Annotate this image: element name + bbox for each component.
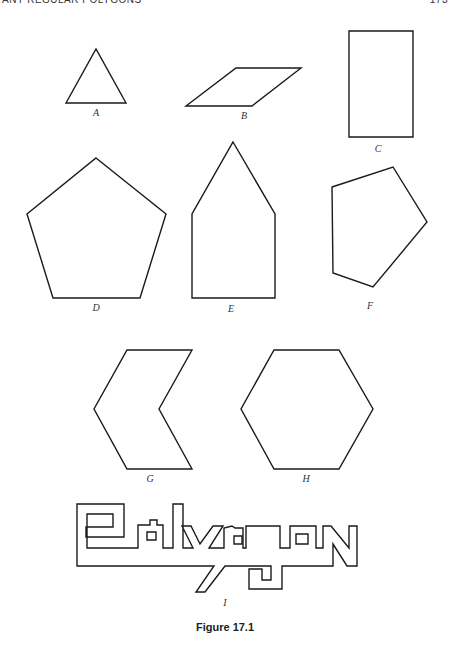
label-d: D xyxy=(92,302,99,313)
shape-d-pentagon xyxy=(27,158,166,298)
label-i: I xyxy=(223,597,226,608)
label-a: A xyxy=(93,107,99,118)
shape-h-hexagon xyxy=(241,350,373,469)
label-g: G xyxy=(146,473,153,484)
shape-b-parallelogram xyxy=(186,68,301,106)
label-e: E xyxy=(228,303,234,314)
label-b: B xyxy=(241,110,247,121)
shape-f-irregular-pentagon xyxy=(332,167,427,287)
label-f: F xyxy=(367,300,373,311)
label-h: H xyxy=(302,473,309,484)
figure-caption: Figure 17.1 xyxy=(196,621,254,633)
shape-a-triangle xyxy=(66,49,126,103)
label-c: C xyxy=(375,143,382,154)
polygon-figure xyxy=(0,0,450,645)
shape-i-polygon-word xyxy=(77,504,357,592)
shape-g-chevron xyxy=(94,350,192,469)
shape-c-rectangle xyxy=(349,31,413,137)
shape-e-house-pentagon xyxy=(192,142,275,298)
